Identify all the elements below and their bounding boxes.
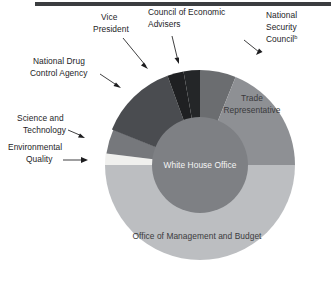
arrowhead-national-security-council: [256, 49, 263, 56]
label-vice-president-line2: President: [93, 24, 129, 34]
label-science-technology-line1: Science and: [17, 113, 64, 123]
label-council-economic-advisers-line2: Advisers: [148, 19, 181, 29]
label-national-security-council-text: Council: [266, 34, 294, 44]
figure-container: Vice President Council of Economic Advis…: [0, 0, 336, 288]
label-national-security-council-line2: Security: [266, 22, 297, 32]
leader-line-council-economic-advisers: [172, 36, 178, 61]
label-white-house-office: White House Office: [164, 160, 237, 170]
label-environmental-quality-line2: Quality: [26, 154, 53, 164]
label-council-economic-advisers-line1: Council of Economic: [148, 7, 225, 17]
label-national-security-council-superscript: b: [294, 34, 297, 40]
arrowhead-vice-president: [141, 63, 148, 70]
leader-line-national-security-council: [244, 40, 259, 52]
label-national-drug-control-agency-line2: Control Agency: [30, 68, 88, 78]
leader-line-vice-president: [123, 38, 146, 66]
label-vice-president-line1: Vice: [101, 12, 118, 22]
label-national-security-council-line3: Councilb: [266, 34, 297, 44]
label-national-drug-control-agency-line1: National Drug: [33, 56, 85, 66]
donut-chart: Vice President Council of Economic Advis…: [0, 0, 336, 288]
label-office-management-budget: Office of Management and Budget: [133, 231, 263, 241]
arrowhead-council-economic-advisers: [175, 58, 180, 65]
label-trade-representative-line1: Trade: [241, 93, 263, 103]
arrowhead-environmental-quality: [81, 157, 88, 163]
label-science-technology-line2: Technology: [23, 125, 67, 135]
label-trade-representative-line2: Representative: [223, 105, 280, 115]
label-environmental-quality-line1: Environmental: [8, 142, 62, 152]
arrowhead-science-technology: [78, 134, 85, 139]
label-national-security-council-line1: National: [266, 10, 297, 20]
